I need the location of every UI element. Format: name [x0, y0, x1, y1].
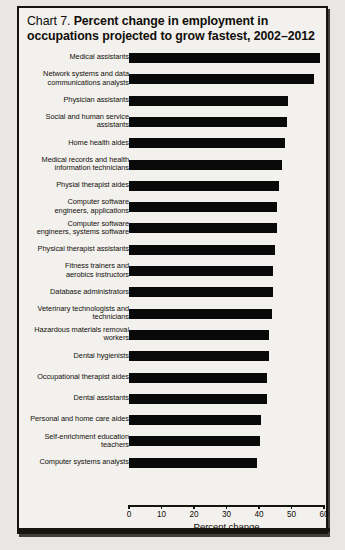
- category-label: Veterinary technologists andtechnicians: [19, 305, 129, 322]
- category-label-line: Home health aides: [19, 139, 129, 147]
- bar: [129, 117, 287, 127]
- chart-title-line-1: Chart 7. Percent change in employment in: [27, 14, 323, 29]
- category-label-line: Database administrators: [19, 288, 129, 296]
- category-label-line: communications analysts: [19, 79, 129, 87]
- bar: [129, 458, 257, 468]
- category-label-line: assistants: [19, 121, 129, 129]
- bottom-rule: [19, 528, 330, 532]
- bar: [129, 245, 275, 255]
- category-label: Network systems and datacommunications a…: [19, 70, 129, 87]
- x-axis-tick-label: 40: [254, 510, 263, 519]
- category-label-line: Computer systems analysts: [19, 458, 129, 466]
- bar: [129, 373, 267, 383]
- category-label: Personal and home care aides: [19, 415, 129, 423]
- x-axis-tick: [128, 505, 129, 509]
- bar: [129, 160, 282, 170]
- category-label: Fitness trainers andaerobics instructors: [19, 262, 129, 279]
- bar: [129, 436, 260, 446]
- category-label-line: Physical therapist assistants: [19, 245, 129, 253]
- chart-page: Chart 7. Percent change in employment in…: [0, 0, 345, 550]
- bar: [129, 351, 269, 361]
- category-label-line: engineers, applications: [19, 207, 129, 215]
- bar-series: [129, 50, 326, 505]
- bar: [129, 223, 277, 233]
- x-axis-tick: [193, 505, 194, 509]
- category-label: Physial therapist aides: [19, 181, 129, 189]
- bar: [129, 266, 273, 276]
- category-label: Computer softwareengineers, systems soft…: [19, 220, 129, 237]
- bar: [129, 394, 267, 404]
- bar: [129, 96, 288, 106]
- bar: [129, 181, 279, 191]
- category-label: Hazardous materials removalworkers: [19, 326, 129, 343]
- category-label-line: Physician assistants: [19, 96, 129, 104]
- bar: [129, 138, 285, 148]
- category-label-line: workers: [19, 334, 129, 342]
- x-axis-tick: [323, 505, 324, 509]
- x-axis-tick: [291, 505, 292, 509]
- category-label: Computer softwareengineers, applications: [19, 198, 129, 215]
- category-label-line: Medical assistants: [19, 53, 129, 61]
- category-label: Dental hygienists: [19, 352, 129, 360]
- bar: [129, 287, 273, 297]
- category-label-line: information technicians: [19, 164, 129, 172]
- plot-area: Medical assistantsNetwork systems and da…: [19, 50, 326, 534]
- category-label: Physician assistants: [19, 96, 129, 104]
- category-label-line: aerobics instructors: [19, 271, 129, 279]
- category-label: Database administrators: [19, 288, 129, 296]
- category-label: Medical records and healthinformation te…: [19, 156, 129, 173]
- x-axis-tick-label: 30: [222, 510, 231, 519]
- category-label-line: Occupational therapist aides: [19, 373, 129, 381]
- category-label-line: engineers, systems software: [19, 228, 129, 236]
- bar: [129, 74, 314, 84]
- x-axis-tick-label: 20: [189, 510, 198, 519]
- chart-title-text-1: Percent change in employment in: [74, 14, 269, 28]
- bar: [129, 330, 269, 340]
- x-axis-tick-label: 50: [287, 510, 296, 519]
- bar: [129, 202, 277, 212]
- x-axis-tick: [258, 505, 259, 509]
- category-label-line: technicians: [19, 313, 129, 321]
- category-label-line: Physial therapist aides: [19, 181, 129, 189]
- category-label: Computer systems analysts: [19, 458, 129, 466]
- chart-title: Chart 7. Percent change in employment in…: [27, 14, 323, 44]
- x-axis-tick-label: 60: [319, 510, 328, 519]
- category-label-line: Dental hygienists: [19, 352, 129, 360]
- bar: [129, 53, 320, 63]
- category-label: Medical assistants: [19, 53, 129, 61]
- category-label: Self-enrichment educationteachers: [19, 433, 129, 450]
- category-label: Social and human serviceassistants: [19, 113, 129, 130]
- x-axis-tick-label: 0: [127, 510, 132, 519]
- bar: [129, 309, 272, 319]
- category-label: Physical therapist assistants: [19, 245, 129, 253]
- x-axis-tick: [226, 505, 227, 509]
- x-axis-tick: [161, 505, 162, 509]
- bar: [129, 415, 261, 425]
- category-label: Dental assistants: [19, 394, 129, 402]
- category-label: Home health aides: [19, 139, 129, 147]
- category-label-list: Medical assistantsNetwork systems and da…: [19, 50, 129, 505]
- category-label-line: Dental assistants: [19, 394, 129, 402]
- category-label-line: Personal and home care aides: [19, 415, 129, 423]
- category-label-line: teachers: [19, 441, 129, 449]
- chart-title-line-2: occupations projected to grow fastest, 2…: [27, 29, 323, 44]
- chart-number: Chart 7.: [27, 14, 70, 28]
- category-label: Occupational therapist aides: [19, 373, 129, 381]
- chart-frame: Chart 7. Percent change in employment in…: [17, 6, 328, 534]
- x-axis-tick-label: 10: [157, 510, 166, 519]
